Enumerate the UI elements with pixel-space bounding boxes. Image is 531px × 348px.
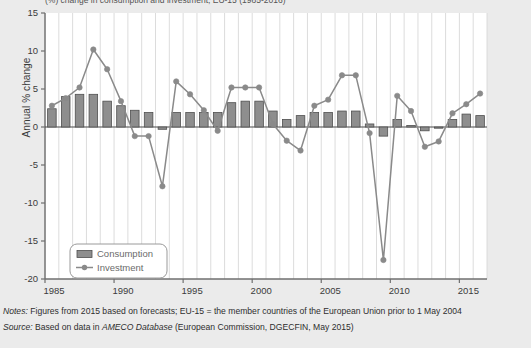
line-marker-investment xyxy=(381,257,386,262)
notes-label: Notes: xyxy=(3,306,28,316)
bar-consumption xyxy=(89,94,98,127)
x-axis-tick-label: 1995 xyxy=(182,285,203,296)
line-marker-investment xyxy=(422,144,427,149)
bar-consumption xyxy=(379,127,388,136)
line-marker-investment xyxy=(160,184,165,189)
line-marker-investment xyxy=(256,85,261,90)
y-axis-tick-label: -20 xyxy=(24,273,38,284)
bar-consumption xyxy=(144,113,153,127)
bar-consumption xyxy=(131,110,140,127)
chart-svg: 151050-5-10-15-2019851990199520002005201… xyxy=(0,0,531,305)
bar-consumption xyxy=(241,101,250,127)
line-marker-investment xyxy=(118,98,123,103)
y-axis-label: Annual % change xyxy=(21,28,32,168)
bar-consumption xyxy=(103,101,112,127)
bar-consumption xyxy=(75,94,84,127)
line-marker-investment xyxy=(187,92,192,97)
line-marker-investment xyxy=(243,85,248,90)
bar-consumption xyxy=(338,111,347,127)
line-marker-investment xyxy=(339,73,344,78)
source-italic: AMECO Database xyxy=(102,322,173,332)
bar-consumption xyxy=(282,119,291,127)
line-marker-investment xyxy=(270,121,275,126)
figure-notes: Notes: Figures from 2015 based on foreca… xyxy=(3,305,528,337)
bar-consumption xyxy=(434,127,443,128)
line-marker-investment xyxy=(395,93,400,98)
bar-consumption xyxy=(186,113,195,127)
source-line: Source: Based on data in AMECO Database … xyxy=(3,321,528,335)
line-marker-investment xyxy=(450,111,455,116)
x-axis-tick-label: 2005 xyxy=(320,285,341,296)
bar-consumption xyxy=(365,124,374,127)
source-pre: Based on data in xyxy=(33,322,102,332)
line-marker-investment xyxy=(201,108,206,113)
line-marker-investment xyxy=(132,133,137,138)
y-axis-tick-label: 0 xyxy=(33,121,38,132)
bar-consumption xyxy=(172,113,181,127)
line-marker-investment xyxy=(325,97,330,102)
x-axis-tick-label: 2000 xyxy=(251,285,272,296)
plot-area: Annual % change 151050-5-10-15-201985199… xyxy=(0,0,531,300)
source-post: (European Commission, DGECFIN, May 2015) xyxy=(173,322,354,332)
line-marker-investment xyxy=(49,103,54,108)
line-marker-investment xyxy=(284,138,289,143)
x-axis-tick-label: 2015 xyxy=(458,285,479,296)
bar-consumption xyxy=(421,127,430,131)
bar-consumption xyxy=(227,103,236,127)
bar-consumption xyxy=(296,116,305,127)
line-marker-investment xyxy=(353,73,358,78)
x-axis-tick-label: 2010 xyxy=(389,285,410,296)
bar-consumption xyxy=(476,116,485,127)
legend-swatch-consumption xyxy=(77,251,92,258)
line-marker-investment xyxy=(63,95,68,100)
legend-label-investment: Investment xyxy=(97,262,144,273)
y-axis-tick-label: -10 xyxy=(24,197,38,208)
line-marker-investment xyxy=(436,139,441,144)
line-marker-investment xyxy=(367,130,372,135)
line-marker-investment xyxy=(91,47,96,52)
legend-marker-investment xyxy=(82,265,87,270)
bar-consumption xyxy=(462,114,471,127)
line-marker-investment xyxy=(174,79,179,84)
line-marker-investment xyxy=(477,91,482,96)
bar-consumption xyxy=(255,101,264,127)
bar-consumption xyxy=(407,125,416,127)
y-axis-tick-label: -15 xyxy=(24,235,38,246)
bar-consumption xyxy=(158,127,167,129)
y-axis-tick-label: 5 xyxy=(33,83,38,94)
bar-consumption xyxy=(352,111,361,127)
x-axis-tick-label: 1990 xyxy=(112,285,133,296)
source-label: Source: xyxy=(3,322,33,332)
line-marker-investment xyxy=(146,133,151,138)
line-marker-investment xyxy=(408,108,413,113)
notes-text: Figures from 2015 based on forecasts; EU… xyxy=(28,306,462,316)
x-axis-tick-label: 1985 xyxy=(43,285,64,296)
line-marker-investment xyxy=(298,148,303,153)
line-marker-investment xyxy=(229,85,234,90)
line-marker-investment xyxy=(215,128,220,133)
bar-consumption xyxy=(61,97,70,127)
bar-consumption xyxy=(48,109,57,127)
legend-label-consumption: Consumption xyxy=(97,248,153,259)
line-marker-investment xyxy=(77,85,82,90)
figure-container: (%) change in consumption and investment… xyxy=(0,0,531,348)
line-marker-investment xyxy=(464,102,469,107)
bar-consumption xyxy=(324,113,333,127)
line-marker-investment xyxy=(312,103,317,108)
y-axis-tick-label: 15 xyxy=(27,7,38,18)
notes-line: Notes: Figures from 2015 based on foreca… xyxy=(3,305,528,319)
line-marker-investment xyxy=(104,67,109,72)
